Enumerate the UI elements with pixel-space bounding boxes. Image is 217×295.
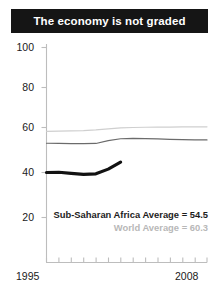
y-axis-ticks xyxy=(42,48,47,218)
y-tick-label-20: 20 xyxy=(8,212,34,223)
chart-figure: The economy is not graded xyxy=(0,0,217,295)
data-series-layer xyxy=(47,127,208,174)
legend-label-world-average: World Average = 60.3 xyxy=(40,222,208,235)
x-tick-label-end: 2008 xyxy=(175,271,198,282)
series-line-world-average xyxy=(47,127,208,132)
y-tick-label-100: 100 xyxy=(8,42,34,53)
x-tick-label-start: 1995 xyxy=(16,271,39,282)
y-tick-label-60: 60 xyxy=(8,122,34,133)
chart-legend: Sub-Saharan Africa Average = 54.5 World … xyxy=(40,209,208,234)
series-line-sub-saharan-africa-average xyxy=(47,138,208,143)
y-tick-label-80: 80 xyxy=(8,82,34,93)
series-line-highlighted-country xyxy=(47,162,121,174)
x-axis-ticks xyxy=(47,258,208,263)
legend-label-sub-saharan-africa-average: Sub-Saharan Africa Average = 54.5 xyxy=(40,209,208,222)
y-tick-label-40: 40 xyxy=(8,167,34,178)
